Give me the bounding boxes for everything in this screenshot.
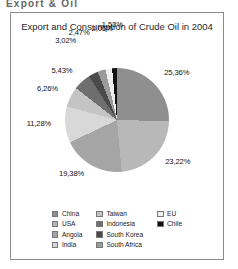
legend-item-label: China (62, 210, 79, 218)
pie-slice-label: 11,28% (27, 119, 52, 128)
legend-swatch-icon (157, 221, 164, 228)
legend-swatch-icon (52, 211, 59, 218)
pie-slice-label: 1,53% (102, 20, 123, 29)
cropped-page-header: Export & Oil (6, 0, 156, 9)
legend-item[interactable]: South Africa (96, 241, 143, 249)
legend-item-label: Chile (167, 220, 182, 228)
pie-slice-label: 19,38% (59, 169, 84, 178)
chart-page: Export & Oil Export and Consumption of C… (0, 0, 238, 269)
legend-item-label: Taiwan (106, 210, 127, 218)
chart-legend: ChinaUSAAngolaIndiaTaiwanIndonesiaSouth … (11, 210, 223, 249)
legend-item-label: India (62, 241, 76, 249)
legend-item-label: Indonesia (106, 220, 135, 228)
legend-item[interactable]: EU (157, 210, 182, 218)
legend-column: TaiwanIndonesiaSouth KoreaSouth Africa (96, 210, 143, 249)
legend-item[interactable]: Indonesia (96, 220, 143, 228)
legend-item[interactable]: India (52, 241, 83, 249)
pie-slice-label: 5,43% (51, 66, 72, 75)
legend-item-label: EU (167, 210, 176, 218)
legend-item-label: Angola (62, 231, 83, 239)
chart-frame: Export and Consumption of Crude Oil in 2… (10, 12, 224, 260)
legend-swatch-icon (52, 242, 59, 249)
legend-item-label: USA (62, 220, 76, 228)
legend-item[interactable]: China (52, 210, 83, 218)
legend-item[interactable]: Taiwan (96, 210, 143, 218)
legend-column: EUChile (157, 210, 182, 249)
legend-item[interactable]: Angola (52, 231, 83, 239)
legend-swatch-icon (96, 221, 103, 228)
legend-item[interactable]: Chile (157, 220, 182, 228)
legend-item[interactable]: USA (52, 220, 83, 228)
pie-slice-label: 25,36% (164, 68, 189, 77)
pie-slice-label: 3,02% (55, 36, 76, 45)
legend-swatch-icon (96, 211, 103, 218)
pie-slice-label: 2,47% (69, 28, 90, 37)
pie-slice-label: 6,26% (37, 84, 58, 93)
legend-swatch-icon (96, 231, 103, 238)
legend-item-label: South Africa (106, 241, 142, 249)
legend-column: ChinaUSAAngolaIndia (52, 210, 83, 249)
pie-chart (65, 68, 169, 172)
legend-item[interactable]: South Korea (96, 231, 143, 239)
legend-swatch-icon (52, 221, 59, 228)
legend-swatch-icon (52, 231, 59, 238)
legend-swatch-icon (96, 242, 103, 249)
pie-plot-area: 25,36%23,22%19,38%11,28%6,26%5,43%3,02%2… (11, 37, 223, 197)
legend-swatch-icon (157, 211, 164, 218)
pie-slice-label: 23,22% (165, 157, 190, 166)
legend-item-label: South Korea (106, 231, 143, 239)
